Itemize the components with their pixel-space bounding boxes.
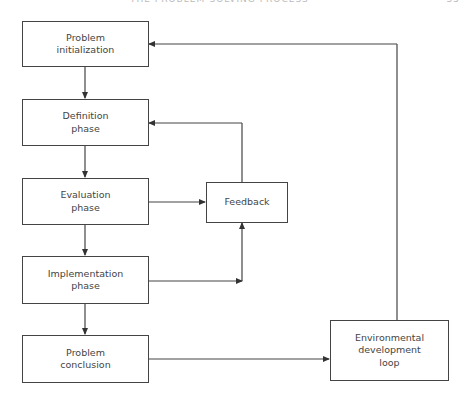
node-problem-initialization: Problem initialization <box>22 21 149 67</box>
node-implementation-phase: Implementation phase <box>22 256 149 304</box>
node-label-line: Problem <box>66 347 105 360</box>
node-feedback: Feedback <box>206 182 288 223</box>
node-label-line: Evaluation <box>60 189 110 202</box>
node-evaluation-phase: Evaluation phase <box>22 178 149 225</box>
node-label-line: conclusion <box>60 359 110 372</box>
node-label-line: Implementation <box>48 268 123 281</box>
node-environmental-development-loop: Environmental development loop <box>330 320 449 381</box>
node-definition-phase: Definition phase <box>22 99 149 146</box>
node-label-line: phase <box>71 202 100 215</box>
node-label-line: development <box>358 344 421 357</box>
node-label-line: phase <box>71 280 100 293</box>
node-label-line: Environmental <box>355 332 424 345</box>
node-label-line: Definition <box>62 110 108 123</box>
node-problem-conclusion: Problem conclusion <box>22 335 149 383</box>
node-label-line: Feedback <box>224 196 269 209</box>
node-label-line: loop <box>379 357 399 370</box>
node-label-line: Problem <box>66 32 105 45</box>
node-label-line: phase <box>71 123 100 136</box>
node-label-line: initialization <box>57 44 115 57</box>
